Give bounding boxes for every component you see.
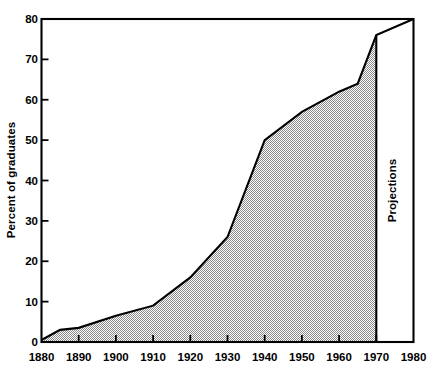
chart-container: Percent of graduates 01020304050607080 1… (0, 0, 446, 378)
area-fill (42, 35, 377, 342)
plot-graphics: Projections (42, 19, 414, 342)
plot-area: Projections (0, 0, 446, 378)
projections-label: Projections (386, 159, 398, 223)
